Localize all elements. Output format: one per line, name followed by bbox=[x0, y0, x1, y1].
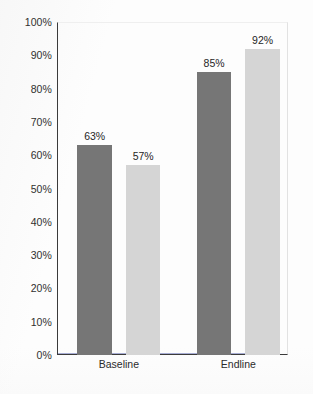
y-axis-tick-label: 40% bbox=[31, 216, 52, 228]
y-axis-tick-label: 30% bbox=[31, 249, 52, 261]
bar-baseline-hospital: Hospital bbox=[77, 145, 112, 355]
y-axis-tick-label: 0% bbox=[37, 349, 52, 361]
y-axis-tick-label: 10% bbox=[31, 316, 52, 328]
y-axis-tick-label: 20% bbox=[31, 282, 52, 294]
bar-endline-community: Community bbox=[245, 49, 280, 355]
y-axis-tick-label: 100% bbox=[25, 16, 52, 28]
bar-value-label: 92% bbox=[252, 34, 273, 46]
bar-endline-hospital: Hospital bbox=[197, 72, 232, 355]
x-axis: BaselineEndline bbox=[57, 358, 288, 380]
bars-layer: Hospital63%Community57%Hospital85%Commun… bbox=[57, 22, 288, 355]
y-axis-tick-label: 50% bbox=[31, 183, 52, 195]
x-axis-tick-label: Baseline bbox=[99, 358, 139, 370]
bar-value-label: 63% bbox=[84, 130, 105, 142]
bar-chart: 100%90%80%70%60%50%40%30%20%10%0% Hospit… bbox=[0, 0, 313, 394]
bar-value-label: 85% bbox=[204, 57, 225, 69]
y-axis-tick-label: 90% bbox=[31, 49, 52, 61]
y-axis: 100%90%80%70%60%50%40%30%20%10%0% bbox=[0, 22, 52, 355]
bar-baseline-community: Community bbox=[126, 165, 161, 355]
x-axis-tick-label: Endline bbox=[221, 358, 256, 370]
y-axis-tick-label: 70% bbox=[31, 116, 52, 128]
y-axis-tick-label: 80% bbox=[31, 83, 52, 95]
y-axis-tick-label: 60% bbox=[31, 149, 52, 161]
bar-value-label: 57% bbox=[133, 150, 154, 162]
